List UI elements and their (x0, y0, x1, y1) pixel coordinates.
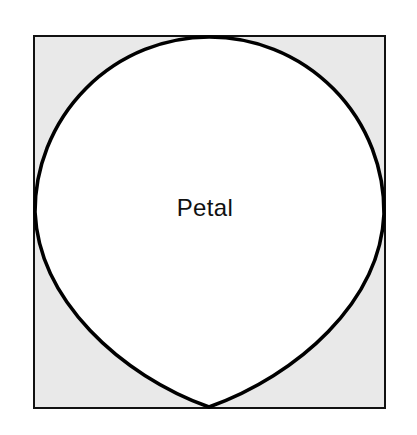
petal-label: Petal (177, 194, 234, 221)
petal-diagram-svg: Petal (0, 0, 417, 435)
figure-container: Petal (0, 0, 417, 435)
